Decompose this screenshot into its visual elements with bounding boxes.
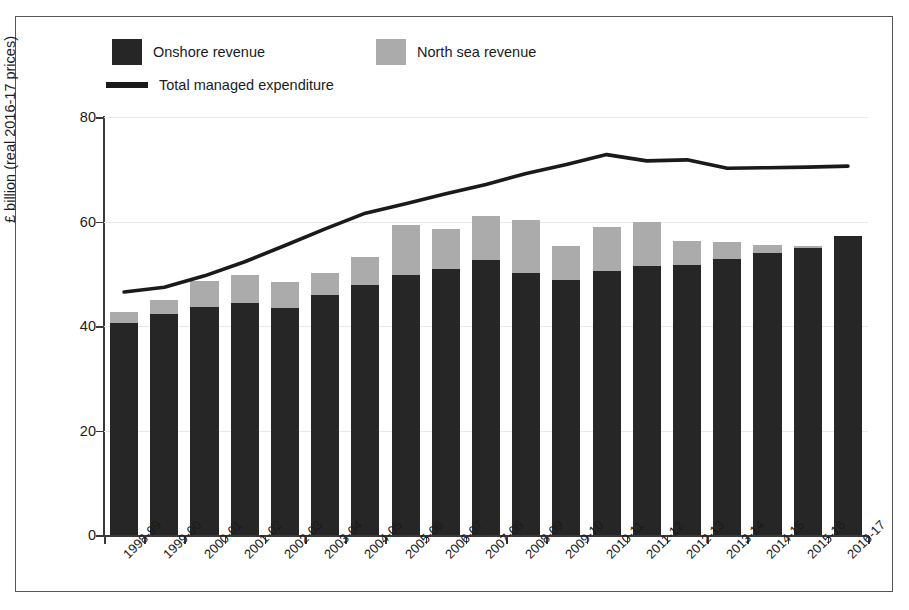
- legend-item-north-sea-revenue: North sea revenue: [376, 39, 536, 65]
- y-axis-tick: [96, 222, 104, 224]
- bar-group: [311, 117, 339, 535]
- bar-segment-north-sea-revenue: [673, 241, 701, 265]
- bar-segment-onshore-revenue: [713, 259, 741, 535]
- bar-group: [753, 117, 781, 535]
- bar-segment-onshore-revenue: [794, 248, 822, 535]
- bar-segment-north-sea-revenue: [190, 281, 218, 308]
- bar-segment-onshore-revenue: [271, 308, 299, 535]
- legend-swatch-onshore-icon: [112, 39, 142, 65]
- bar-segment-onshore-revenue: [231, 303, 259, 535]
- bar-segment-north-sea-revenue: [593, 227, 621, 270]
- legend-label-north-sea: North sea revenue: [417, 44, 536, 60]
- bar-segment-north-sea-revenue: [231, 275, 259, 303]
- bar-segment-north-sea-revenue: [552, 246, 580, 280]
- y-axis-tick-label: 0: [88, 527, 96, 543]
- y-axis-tick-label: 80: [80, 109, 96, 125]
- y-axis-tick-label: 20: [80, 423, 96, 439]
- y-axis-title: £ billion (real 2016-17 prices): [2, 0, 18, 223]
- bar-group: [351, 117, 379, 535]
- bar-segment-onshore-revenue: [432, 269, 460, 535]
- bar-group: [271, 117, 299, 535]
- bar-segment-onshore-revenue: [351, 285, 379, 535]
- x-axis-tick-labels: 1998-991999-002000-012001-022002-032003-…: [104, 545, 894, 610]
- legend-label-tme: Total managed expenditure: [159, 77, 334, 93]
- bar-segment-north-sea-revenue: [633, 222, 661, 266]
- chart-legend: Onshore revenue North sea revenue Total …: [96, 33, 796, 93]
- bar-segment-north-sea-revenue: [512, 220, 540, 273]
- x-axis-tick: [104, 536, 106, 544]
- bar-group: [633, 117, 661, 535]
- legend-line-tme-icon: [106, 82, 148, 88]
- bar-group: [673, 117, 701, 535]
- bar-group: [110, 117, 138, 535]
- bar-segment-north-sea-revenue: [110, 312, 138, 323]
- bar-segment-onshore-revenue: [110, 323, 138, 535]
- y-axis-tick-label: 60: [80, 214, 96, 230]
- bar-group: [150, 117, 178, 535]
- bar-segment-north-sea-revenue: [713, 242, 741, 259]
- bar-segment-north-sea-revenue: [271, 282, 299, 308]
- y-axis-tick: [96, 431, 104, 433]
- bar-segment-onshore-revenue: [753, 253, 781, 535]
- y-axis-tick: [96, 326, 104, 328]
- plot-area: [104, 117, 868, 535]
- bar-segment-onshore-revenue: [311, 295, 339, 535]
- figure-frame: Onshore revenue North sea revenue Total …: [15, 16, 893, 592]
- bar-segment-onshore-revenue: [150, 314, 178, 535]
- legend-item-onshore-revenue: Onshore revenue: [112, 39, 265, 65]
- bar-segment-onshore-revenue: [633, 266, 661, 535]
- y-axis-tick: [96, 535, 104, 537]
- bar-segment-onshore-revenue: [593, 271, 621, 535]
- y-axis-tick-label: 40: [80, 318, 96, 334]
- legend-swatch-north-sea-icon: [376, 39, 406, 65]
- bar-segment-onshore-revenue: [834, 236, 862, 535]
- bar-segment-north-sea-revenue: [311, 273, 339, 295]
- bar-group: [794, 117, 822, 535]
- bar-group: [593, 117, 621, 535]
- bar-segment-north-sea-revenue: [794, 246, 822, 248]
- bar-group: [834, 117, 862, 535]
- bar-segment-north-sea-revenue: [753, 245, 781, 253]
- bar-segment-north-sea-revenue: [472, 216, 500, 260]
- legend-item-total-managed-expenditure: Total managed expenditure: [106, 77, 334, 93]
- bar-segment-onshore-revenue: [392, 275, 420, 535]
- bar-segment-north-sea-revenue: [351, 257, 379, 286]
- bar-group: [190, 117, 218, 535]
- bar-segment-onshore-revenue: [552, 280, 580, 535]
- bar-segment-north-sea-revenue: [392, 225, 420, 275]
- bar-group: [512, 117, 540, 535]
- bar-segment-north-sea-revenue: [432, 229, 460, 269]
- legend-label-onshore: Onshore revenue: [153, 44, 265, 60]
- bar-group: [432, 117, 460, 535]
- y-axis-tick-labels: 020406080: [54, 117, 96, 535]
- bar-group: [231, 117, 259, 535]
- bar-group: [472, 117, 500, 535]
- bar-segment-north-sea-revenue: [150, 300, 178, 314]
- bar-segment-onshore-revenue: [673, 265, 701, 535]
- bar-group: [392, 117, 420, 535]
- bar-segment-onshore-revenue: [190, 307, 218, 535]
- bar-group: [713, 117, 741, 535]
- bar-segment-onshore-revenue: [512, 273, 540, 535]
- bar-group: [552, 117, 580, 535]
- bar-segment-onshore-revenue: [472, 260, 500, 535]
- y-axis-tick: [96, 117, 104, 119]
